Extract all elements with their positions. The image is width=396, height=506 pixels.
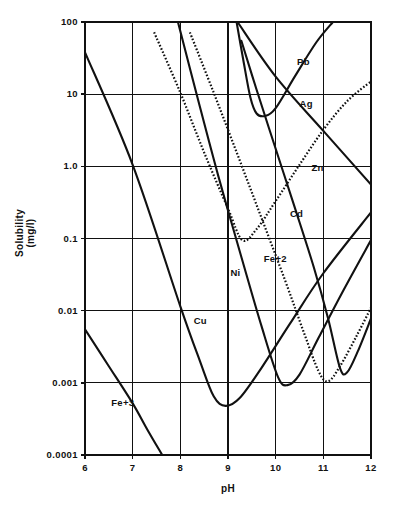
series-label-ni: Ni [230,267,240,278]
y-axis-title-line2: (mg/l) [25,218,36,247]
series-label-cd: Cd [290,208,303,219]
y-tick-label: 0.0001 [47,449,78,460]
x-tick-label: 9 [208,462,248,473]
x-tick-label: 8 [160,462,200,473]
curve-feplus2 [190,32,371,381]
x-axis-title: pH [188,483,268,494]
axis-ticks [81,22,371,459]
y-axis-title-line1: Solubility [14,209,25,257]
y-tick-label: 1.0 [64,160,78,171]
solubility-ph-chart: 100101.00.10.010.0010.0001 6789101112 Fe… [0,0,396,506]
gridlines [85,22,371,455]
series-label-pb: Pb [297,56,310,67]
y-tick-label: 100 [61,16,78,27]
x-tick-label: 11 [303,462,343,473]
x-tick-label: 12 [351,462,391,473]
series-label-cu: Cu [194,315,207,326]
x-tick-label: 10 [256,462,296,473]
curve-zn [154,32,371,241]
y-tick-label: 0.001 [52,377,78,388]
curve-feplus3 [85,329,162,455]
y-tick-label: 0.1 [64,233,78,244]
y-tick-label: 10 [67,88,78,99]
series-label-feplus2: Fe+2 [264,253,287,264]
series-label-feplus3: Fe+3 [111,397,134,408]
x-tick-label: 7 [113,462,153,473]
series-label-ag: Ag [300,98,313,109]
y-axis-title: Solubility (mg/l) [14,193,36,273]
y-tick-label: 0.01 [58,305,78,316]
series-label-zn: Zn [311,162,323,173]
x-tick-label: 6 [65,462,105,473]
chart-canvas [0,0,396,506]
